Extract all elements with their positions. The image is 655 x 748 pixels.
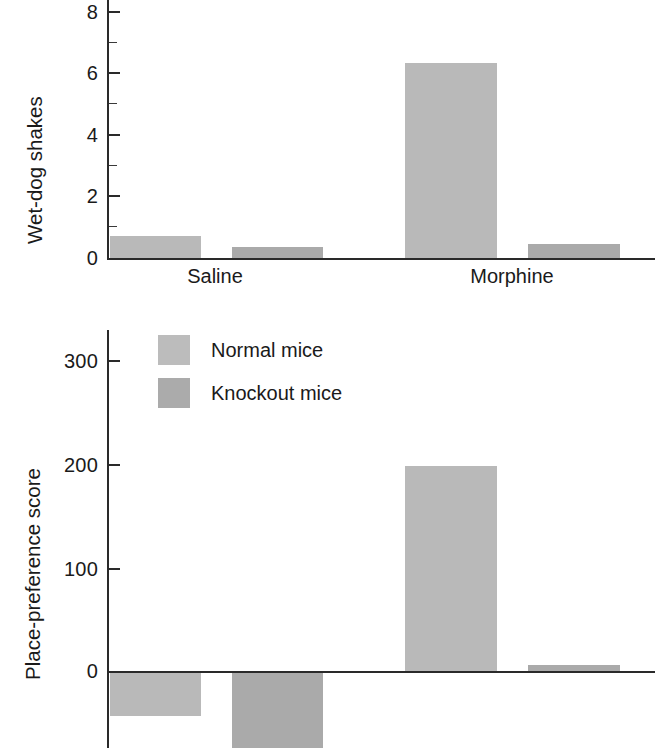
- panel-place-preference-score: 300 200 100 0 Place-preference score Nor…: [0, 330, 655, 748]
- y-tick-minor-top-5: [109, 103, 117, 104]
- y-tick-minor-top-3: [109, 165, 117, 166]
- figure-two-panel-bar-charts: 8 6 4 2 0 Wet-dog shakes Saline Morphine…: [0, 0, 655, 748]
- bar-normal-saline-top: [110, 236, 201, 258]
- y-tick-minor-top-1: [109, 226, 117, 227]
- y-tick-minor-top-7: [109, 42, 117, 43]
- legend-label-normal-mice: Normal mice: [211, 339, 323, 361]
- y-tick-label-top-2: 2: [58, 186, 98, 206]
- panel-wet-dog-shakes: 8 6 4 2 0 Wet-dog shakes Saline Morphine: [0, 0, 655, 300]
- bar-normal-morphine-bottom: [405, 466, 497, 671]
- y-axis-title-top: Wet-dog shakes: [24, 96, 45, 244]
- y-axis-line-top: [107, 0, 109, 260]
- y-tick-label-top-4: 4: [58, 125, 98, 145]
- x-axis-line-top: [107, 258, 655, 260]
- bar-normal-morphine-top: [405, 63, 497, 258]
- bar-knockout-saline-top: [232, 247, 323, 258]
- legend: Normal mice Knockout mice: [0, 330, 655, 420]
- y-tick-top-6: [109, 72, 120, 74]
- y-tick-label-top-6: 6: [58, 63, 98, 83]
- y-axis-title-bottom: Place-preference score: [22, 468, 43, 680]
- y-tick-top-8: [109, 11, 120, 13]
- y-tick-top-4: [109, 134, 120, 136]
- legend-label-knockout-mice: Knockout mice: [211, 382, 342, 404]
- y-tick-top-2: [109, 195, 120, 197]
- y-tick-label-top-8: 8: [58, 2, 98, 22]
- legend-item-normal-mice[interactable]: Normal mice: [158, 335, 323, 365]
- y-tick-label-top-0: 0: [58, 248, 98, 268]
- legend-item-knockout-mice[interactable]: Knockout mice: [158, 378, 342, 408]
- bar-normal-saline-bottom: [110, 673, 201, 716]
- bar-knockout-morphine-top: [528, 244, 620, 258]
- y-tick-bottom-200: [109, 464, 120, 466]
- y-tick-bottom-100: [109, 568, 120, 570]
- bar-knockout-morphine-bottom: [528, 665, 620, 671]
- x-tick-label-saline-top: Saline: [145, 265, 285, 287]
- legend-swatch-knockout-icon: [158, 378, 190, 408]
- legend-swatch-normal-icon: [158, 335, 190, 365]
- x-tick-label-morphine-top: Morphine: [442, 265, 582, 287]
- bar-knockout-saline-bottom: [232, 673, 323, 748]
